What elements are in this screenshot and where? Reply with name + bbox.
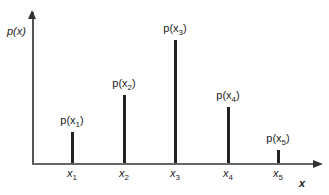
bar-value-label-5: p(x5): [266, 132, 289, 147]
x-axis-label: x: [299, 177, 305, 189]
bar-5: [277, 150, 280, 163]
y-axis: [32, 12, 34, 164]
x-tick-label-5: x5: [273, 167, 283, 182]
y-axis-arrow-icon: [28, 10, 36, 19]
x-tick-label-4: x4: [223, 167, 233, 182]
bar-1: [71, 132, 74, 163]
bar-2: [123, 95, 126, 163]
bar-value-label-4: p(x4): [216, 89, 239, 104]
x-axis: [32, 163, 315, 165]
bar-value-label-3: p(x3): [163, 22, 186, 37]
x-axis-arrow-icon: [313, 160, 323, 168]
bar-value-label-2: p(x2): [112, 77, 135, 92]
x-tick-label-3: x3: [170, 167, 180, 182]
x-tick-label-2: x2: [119, 167, 129, 182]
bar-4: [227, 107, 230, 163]
y-axis-label: p(x): [7, 25, 26, 37]
x-tick-label-1: x1: [67, 167, 77, 182]
bar-3: [174, 40, 177, 163]
bar-value-label-1: p(x1): [60, 114, 83, 129]
